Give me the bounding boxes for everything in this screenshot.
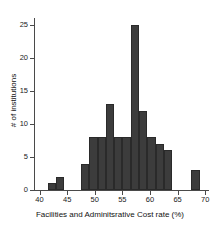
- y-axis-tick-label: 0: [6, 186, 28, 194]
- x-axis-tick-label: 55: [110, 196, 134, 204]
- y-axis-tick: [30, 124, 34, 125]
- histogram-bar: [131, 25, 139, 190]
- y-axis-tick: [30, 91, 34, 92]
- histogram-bar: [139, 111, 147, 190]
- y-axis-line: [34, 18, 35, 191]
- histogram-bar: [164, 150, 172, 190]
- y-axis-tick: [30, 190, 34, 191]
- x-axis-tick-label: 65: [166, 196, 190, 204]
- y-axis-tick-label: 25: [6, 21, 28, 29]
- x-axis-tick-label: 45: [55, 196, 79, 204]
- histogram-bar: [106, 104, 114, 190]
- y-axis-title: # of institutions: [9, 46, 18, 156]
- histogram-bar: [56, 177, 64, 190]
- x-axis-title: Facilities and Adminitsrative Cost rate …: [0, 210, 220, 220]
- histogram-bar: [191, 170, 199, 190]
- histogram-bar: [98, 137, 106, 190]
- y-axis-tick: [30, 25, 34, 26]
- bars-layer: [34, 20, 208, 190]
- y-axis-tick: [30, 58, 34, 59]
- histogram-bar: [156, 144, 164, 190]
- histogram-figure: 0510152025 40455055606570 Facilities and…: [0, 0, 220, 229]
- x-axis-tick-label: 50: [83, 196, 107, 204]
- x-axis-tick-label: 70: [193, 196, 217, 204]
- histogram-bar: [48, 183, 56, 190]
- histogram-bar: [114, 137, 122, 190]
- histogram-bar: [147, 137, 155, 190]
- y-axis-tick: [30, 157, 34, 158]
- x-axis-tick-label: 60: [138, 196, 162, 204]
- histogram-bar: [89, 137, 97, 190]
- plot-area: [34, 20, 208, 190]
- histogram-bar: [122, 137, 130, 190]
- histogram-bar: [81, 164, 89, 190]
- x-axis-tick-label: 40: [28, 196, 52, 204]
